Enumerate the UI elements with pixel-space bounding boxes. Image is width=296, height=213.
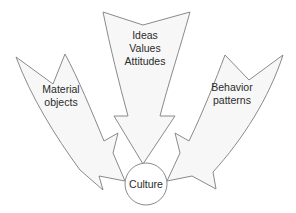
arrow-material-objects-line2: objects bbox=[44, 96, 77, 108]
arrow-values-line2: Values bbox=[129, 42, 160, 54]
arrow-behavior-patterns[interactable]: Behavior patterns bbox=[167, 55, 283, 189]
hub-culture[interactable]: Culture bbox=[125, 163, 167, 205]
arrow-material-objects-line1: Material bbox=[42, 83, 79, 95]
culture-convergence-diagram: Material objects Ideas Values Attitudes … bbox=[0, 0, 296, 213]
diagram-canvas: Material objects Ideas Values Attitudes … bbox=[0, 0, 296, 213]
arrow-patterns-line2: patterns bbox=[213, 94, 251, 106]
arrow-attitudes-line3: Attitudes bbox=[125, 55, 166, 67]
arrow-ideas-line1: Ideas bbox=[132, 29, 158, 41]
hub-culture-label: Culture bbox=[129, 178, 163, 190]
arrow-material-objects-shape bbox=[16, 54, 125, 190]
arrow-material-objects[interactable]: Material objects bbox=[16, 54, 125, 190]
arrow-behavior-line1: Behavior bbox=[211, 81, 253, 93]
arrow-behavior-patterns-shape bbox=[167, 55, 283, 189]
